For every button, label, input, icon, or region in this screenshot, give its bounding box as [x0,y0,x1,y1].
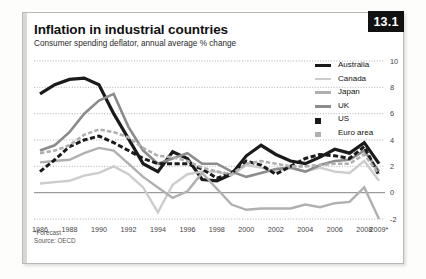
legend-swatch-icon [315,64,331,67]
y-axis-tick-10: 10 [390,57,406,66]
legend-label: Canada [338,74,366,83]
y-axis-tick-2: 2 [390,162,406,171]
y-axis-tick-0: 0 [390,188,406,197]
y-axis-tick-6: 6 [390,109,406,118]
legend-label: Australia [338,60,369,69]
legend-swatch-icon [315,118,331,121]
y-axis-tick-8: 8 [390,83,406,92]
legend-swatch-icon [315,105,331,108]
legend-label: Euro area [338,128,373,137]
figure-number-badge: 13.1 [368,11,404,32]
y-axis-tick--2: -2 [390,215,406,224]
legend-swatch-icon [315,91,331,93]
source-label: Source: OECD [34,237,76,245]
chart-svg [34,57,385,223]
legend-label: UK [338,101,349,110]
legend-swatch-icon [315,132,331,135]
chart-plot-area [34,57,385,223]
legend-label: Japan [338,87,360,96]
series-line-japan [40,148,379,219]
legend-label: US [338,114,349,123]
page-title: Inflation in industrial countries [34,22,228,37]
x-axis-tick-2009: 2009* [362,225,396,234]
y-axis-tick-4: 4 [390,136,406,145]
legend-swatch-icon [315,78,331,80]
figure-panel: 13.1 Inflation in industrial countries C… [22,12,404,264]
chart-subtitle: Consumer spending deflator, annual avera… [34,39,236,48]
